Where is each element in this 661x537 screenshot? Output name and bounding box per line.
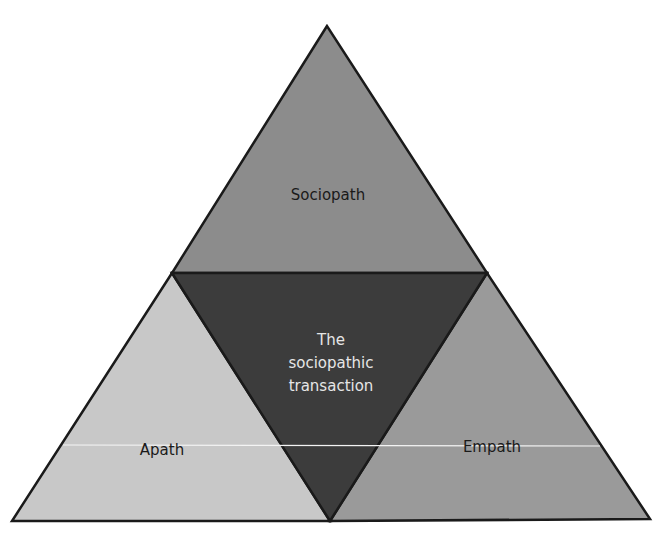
sociopath-label: Sociopath <box>291 186 365 204</box>
sociopathic-transaction-diagram: Sociopath The sociopathic transaction Ap… <box>0 0 661 537</box>
sociopath-region <box>172 26 487 273</box>
transaction-label-line-2: sociopathic <box>288 354 373 372</box>
transaction-label-line-3: transaction <box>289 377 374 395</box>
transaction-label-line-1: The <box>316 331 345 349</box>
apath-label: Apath <box>140 441 184 459</box>
empath-label: Empath <box>463 438 521 456</box>
